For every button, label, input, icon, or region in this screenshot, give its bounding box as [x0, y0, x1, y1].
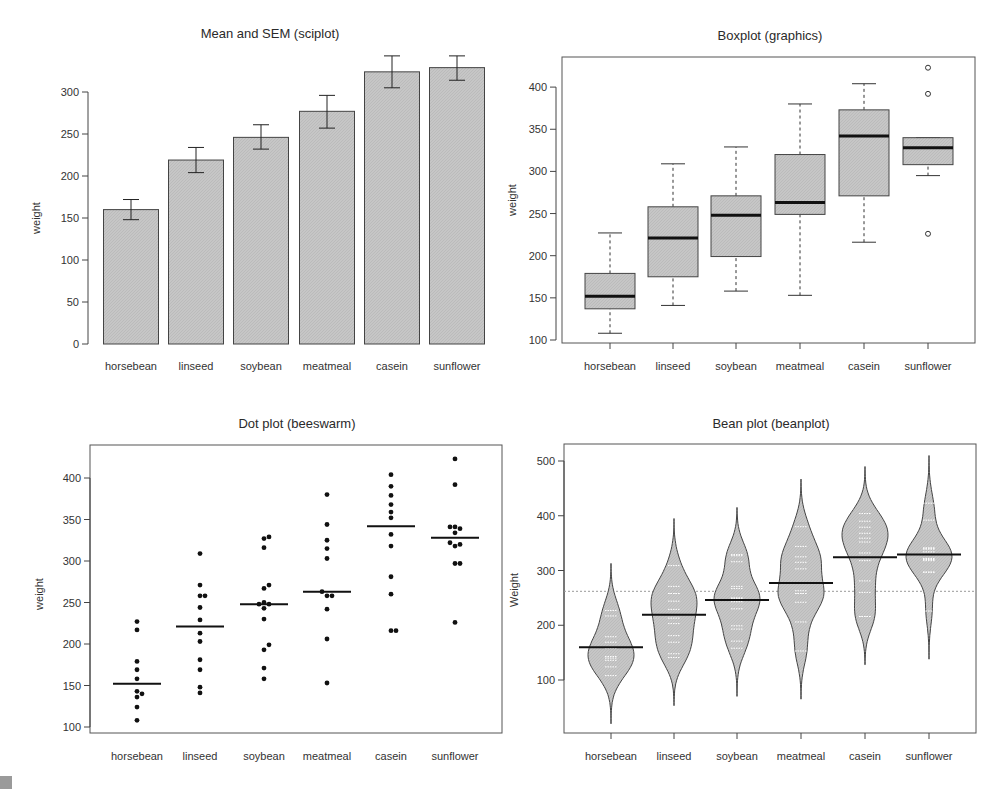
dotplot-frame: [90, 445, 502, 733]
data-point: [135, 689, 140, 694]
bar: [169, 160, 224, 344]
data-point: [135, 676, 140, 681]
x-tick-label: soybean: [716, 750, 758, 762]
data-point: [198, 631, 203, 636]
y-tick-label: 350: [63, 514, 81, 526]
y-tick-label: 250: [63, 597, 81, 609]
y-tick-label: 350: [529, 123, 547, 135]
x-tick-label: soybean: [240, 360, 282, 372]
data-point: [453, 457, 458, 462]
data-point: [198, 657, 203, 662]
data-point: [448, 525, 453, 530]
dotplot-series: [113, 457, 479, 723]
dotplot-panel: Dot plot (beeswarm) weight 1001502002503…: [33, 416, 502, 762]
y-tick-label: 150: [63, 680, 81, 692]
dotplot-x-labels: horsebeanlinseedsoybeanmeatmealcaseinsun…: [111, 750, 479, 762]
data-point: [262, 676, 267, 681]
data-point: [198, 605, 203, 610]
y-tick-label: 200: [529, 250, 547, 262]
boxplot-ylabel: weight: [506, 184, 518, 217]
x-tick-label: sunflower: [905, 750, 952, 762]
x-tick-label: linseed: [183, 750, 218, 762]
data-point: [453, 482, 458, 487]
x-tick-label: linseed: [179, 360, 214, 372]
bar-chart-panel: Mean and SEM (sciplot) weight 0501001502…: [30, 26, 485, 372]
outlier: [926, 65, 931, 70]
x-tick-label: meatmeal: [777, 750, 825, 762]
y-tick-label: 300: [63, 555, 81, 567]
y-tick-label: 300: [61, 86, 79, 98]
y-tick-label: 300: [537, 565, 555, 577]
data-point: [389, 544, 394, 549]
data-point: [198, 639, 203, 644]
box: [648, 207, 698, 277]
x-tick-label: horsebean: [105, 360, 157, 372]
y-tick-label: 400: [537, 510, 555, 522]
data-point: [389, 592, 394, 597]
x-tick-label: horsebean: [584, 360, 636, 372]
boxplot-title: Boxplot (graphics): [718, 28, 823, 43]
data-point: [453, 544, 458, 549]
data-point: [267, 535, 272, 540]
data-point: [389, 472, 394, 477]
data-point: [325, 556, 330, 561]
data-point: [262, 586, 267, 591]
box: [839, 110, 889, 196]
y-tick-label: 100: [61, 254, 79, 266]
bar: [300, 111, 355, 344]
data-point: [198, 691, 203, 696]
data-point: [453, 620, 458, 625]
x-tick-label: sunflower: [433, 360, 480, 372]
data-point: [325, 593, 330, 598]
outlier: [926, 91, 931, 96]
data-point: [198, 685, 203, 690]
data-point: [394, 628, 399, 633]
box: [903, 138, 953, 165]
bar: [234, 137, 289, 344]
data-point: [262, 647, 267, 652]
data-point: [135, 667, 140, 672]
data-point: [267, 583, 272, 588]
beanplot-x-labels: horsebeanlinseedsoybeanmeatmealcaseinsun…: [585, 733, 953, 762]
data-point: [262, 617, 267, 622]
data-point: [389, 484, 394, 489]
box: [775, 155, 825, 215]
box: [585, 273, 635, 308]
data-point: [453, 561, 458, 566]
y-tick-label: 250: [529, 208, 547, 220]
bar: [430, 68, 485, 344]
y-tick-label: 200: [63, 638, 81, 650]
x-tick-label: linseed: [657, 750, 692, 762]
y-tick-label: 150: [61, 212, 79, 224]
data-point: [325, 637, 330, 642]
beanplot-y-axis: 100200300400500: [537, 455, 564, 686]
data-point: [262, 606, 267, 611]
data-point: [140, 691, 145, 696]
beanplot-title: Bean plot (beanplot): [712, 416, 829, 431]
data-point: [389, 502, 394, 507]
data-point: [198, 618, 203, 623]
x-tick-label: casein: [376, 360, 408, 372]
y-tick-label: 100: [63, 721, 81, 733]
beanplot-panel: Bean plot (beanplot) Weight 100200300400…: [508, 416, 976, 762]
y-tick-label: 200: [537, 619, 555, 631]
bean-shape: [588, 563, 634, 723]
y-tick-label: 100: [537, 674, 555, 686]
data-point: [458, 561, 463, 566]
x-tick-label: sunflower: [904, 360, 951, 372]
data-point: [389, 493, 394, 498]
x-tick-label: sunflower: [431, 750, 478, 762]
y-tick-label: 150: [529, 292, 547, 304]
x-tick-label: horsebean: [111, 750, 163, 762]
data-point: [198, 593, 203, 598]
data-point: [458, 542, 463, 547]
data-point: [389, 515, 394, 520]
x-tick-label: meatmeal: [303, 750, 351, 762]
bean-shape: [778, 479, 824, 699]
data-point: [453, 530, 458, 535]
x-tick-label: casein: [849, 750, 881, 762]
bar: [365, 72, 420, 344]
bar-series: [104, 56, 485, 344]
data-point: [325, 546, 330, 551]
y-tick-label: 0: [73, 338, 79, 350]
